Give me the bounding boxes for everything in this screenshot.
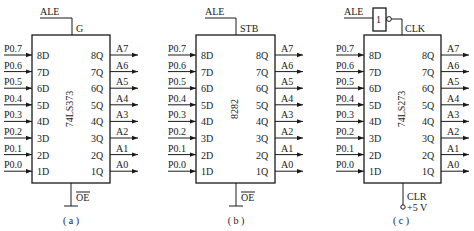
output-pin-label: 8Q xyxy=(256,50,269,61)
arrow-head-icon xyxy=(463,119,469,123)
output-signal-label: A3 xyxy=(116,109,128,120)
input-signal-label: P0.5 xyxy=(336,76,354,87)
figure-caption: ( b ) xyxy=(228,215,245,227)
arrow-head-icon xyxy=(132,136,138,140)
output-signal-label: A7 xyxy=(281,43,293,54)
arrow-head-icon xyxy=(26,53,32,57)
arrow-head-icon xyxy=(132,86,138,90)
input-pin-label: 5D xyxy=(37,100,49,111)
output-pin-label: 6Q xyxy=(91,83,104,94)
input-pin-label: 1D xyxy=(201,166,213,177)
arrow-head-icon xyxy=(297,152,303,156)
output-pin-label: 1Q xyxy=(256,166,269,177)
output-signal-label: A2 xyxy=(116,126,128,137)
arrow-head-icon xyxy=(190,136,196,140)
input-pin-label: 4D xyxy=(369,116,381,127)
input-pin-label: 2D xyxy=(201,150,213,161)
chip-name-label: 74LS373 xyxy=(64,91,75,128)
input-signal-label: P0.3 xyxy=(168,109,186,120)
vcc-label: +5 V xyxy=(407,202,428,213)
output-pin-label: 5Q xyxy=(256,100,269,111)
arrow-head-icon xyxy=(26,152,32,156)
latch-diagram: 74LS373P0.78DA78QP0.67DA67QP0.56DA56QP0.… xyxy=(0,0,474,231)
arrow-head-icon xyxy=(26,86,32,90)
output-signal-label: A0 xyxy=(281,159,293,170)
arrow-head-icon xyxy=(132,152,138,156)
arrow-head-icon xyxy=(297,103,303,107)
figure-caption: ( a ) xyxy=(63,215,79,227)
arrow-head-icon xyxy=(358,69,364,73)
input-pin-label: 3D xyxy=(37,133,49,144)
output-pin-label: 6Q xyxy=(256,83,269,94)
output-pin-label: 2Q xyxy=(256,150,269,161)
figure-caption: ( c ) xyxy=(393,215,409,227)
output-signal-label: A6 xyxy=(116,60,128,71)
input-signal-label: P0.0 xyxy=(336,159,354,170)
output-pin-label: 8Q xyxy=(422,50,435,61)
inversion-bubble-icon xyxy=(387,17,392,22)
arrow-head-icon xyxy=(190,103,196,107)
output-pin-label: 7Q xyxy=(422,67,435,78)
output-signal-label: A6 xyxy=(281,60,293,71)
arrow-head-icon xyxy=(132,69,138,73)
input-signal-label: P0.7 xyxy=(168,43,186,54)
input-signal-label: P0.7 xyxy=(4,43,22,54)
output-pin-label: 3Q xyxy=(422,133,435,144)
arrow-head-icon xyxy=(190,119,196,123)
arrow-head-icon xyxy=(297,169,303,173)
arrow-head-icon xyxy=(190,169,196,173)
oe-pin-label: OE xyxy=(76,192,89,203)
output-signal-label: A4 xyxy=(447,93,459,104)
arrow-head-icon xyxy=(463,53,469,57)
output-signal-label: A2 xyxy=(447,126,459,137)
output-signal-label: A5 xyxy=(281,76,293,87)
arrow-head-icon xyxy=(190,53,196,57)
input-pin-label: 6D xyxy=(201,83,213,94)
output-signal-label: A1 xyxy=(447,143,459,154)
input-signal-label: P0.4 xyxy=(336,93,354,104)
arrow-head-icon xyxy=(297,69,303,73)
output-pin-label: 4Q xyxy=(422,116,435,127)
output-signal-label: A1 xyxy=(116,143,128,154)
input-pin-label: 2D xyxy=(369,150,381,161)
input-pin-label: 5D xyxy=(369,100,381,111)
arrow-head-icon xyxy=(26,119,32,123)
output-signal-label: A3 xyxy=(447,109,459,120)
arrow-head-icon xyxy=(297,86,303,90)
output-pin-label: 4Q xyxy=(91,116,104,127)
chip-name-label: 8282 xyxy=(229,99,240,119)
output-signal-label: A2 xyxy=(281,126,293,137)
output-signal-label: A3 xyxy=(281,109,293,120)
output-pin-label: 2Q xyxy=(422,150,435,161)
arrow-head-icon xyxy=(132,103,138,107)
control-input-label: ALE xyxy=(40,6,59,17)
arrow-head-icon xyxy=(358,53,364,57)
arrow-head-icon xyxy=(190,86,196,90)
input-pin-label: 4D xyxy=(201,116,213,127)
arrow-head-icon xyxy=(463,152,469,156)
arrow-head-icon xyxy=(26,136,32,140)
input-pin-label: 4D xyxy=(37,116,49,127)
input-signal-label: P0.5 xyxy=(168,76,186,87)
input-signal-label: P0.0 xyxy=(168,159,186,170)
control-input-label: ALE xyxy=(344,6,363,17)
input-pin-label: 7D xyxy=(201,67,213,78)
chip-a: 74LS373P0.78DA78QP0.67DA67QP0.56DA56QP0.… xyxy=(4,6,138,227)
chip-name-label: 74LS273 xyxy=(396,91,407,128)
input-signal-label: P0.1 xyxy=(4,143,22,154)
arrow-head-icon xyxy=(297,53,303,57)
arrow-head-icon xyxy=(463,103,469,107)
output-pin-label: 5Q xyxy=(422,100,435,111)
output-pin-label: 8Q xyxy=(91,50,104,61)
input-signal-label: P0.6 xyxy=(4,60,22,71)
input-pin-label: 8D xyxy=(369,50,381,61)
output-signal-label: A4 xyxy=(281,93,293,104)
output-signal-label: A1 xyxy=(281,143,293,154)
input-pin-label: 3D xyxy=(201,133,213,144)
output-signal-label: A0 xyxy=(447,159,459,170)
input-signal-label: P0.7 xyxy=(336,43,354,54)
output-pin-label: 1Q xyxy=(422,166,435,177)
input-pin-label: 1D xyxy=(369,166,381,177)
chip-b: 8282P0.78DA78QP0.67DA67QP0.56DA56QP0.45D… xyxy=(168,6,303,227)
output-signal-label: A7 xyxy=(447,43,459,54)
